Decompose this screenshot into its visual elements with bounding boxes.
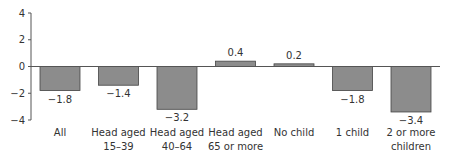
value-label: −3.4 — [399, 115, 423, 126]
value-label: −3.2 — [165, 112, 189, 123]
category-label: 15–39 — [103, 141, 133, 152]
value-label: 0.2 — [286, 50, 302, 61]
category-label: 1 child — [336, 127, 369, 138]
category-label: 65 or more — [208, 141, 263, 152]
bar — [157, 67, 197, 110]
y-tick-label: 2 — [19, 34, 25, 45]
bar — [99, 67, 139, 86]
bars — [40, 61, 431, 112]
category-label: Head aged — [91, 127, 145, 138]
y-tick-label: 0 — [19, 61, 25, 72]
value-label: −1.8 — [340, 94, 364, 105]
category-label: No child — [274, 127, 315, 138]
category-label: All — [54, 127, 66, 138]
bar-chart: 420−2−4 −1.8−1.4−3.20.40.2−1.8−3.4 AllHe… — [0, 0, 450, 165]
y-tick-label: 4 — [19, 8, 25, 19]
bar — [391, 67, 431, 112]
bar — [216, 61, 256, 66]
category-label: 2 or more — [387, 127, 436, 138]
bar — [40, 67, 80, 91]
bar — [333, 67, 373, 91]
category-label: Head aged — [150, 127, 204, 138]
value-label: −1.4 — [106, 88, 130, 99]
y-tick-label: −4 — [10, 115, 25, 126]
category-label: children — [391, 141, 431, 152]
value-label: −1.8 — [48, 94, 72, 105]
value-label: 0.4 — [228, 47, 244, 58]
y-tick-label: −2 — [10, 88, 25, 99]
category-labels: AllHead aged15–39Head aged40–64Head aged… — [54, 127, 436, 152]
category-label: Head aged — [208, 127, 262, 138]
y-axis: 420−2−4 — [10, 8, 31, 126]
category-label: 40–64 — [162, 141, 192, 152]
